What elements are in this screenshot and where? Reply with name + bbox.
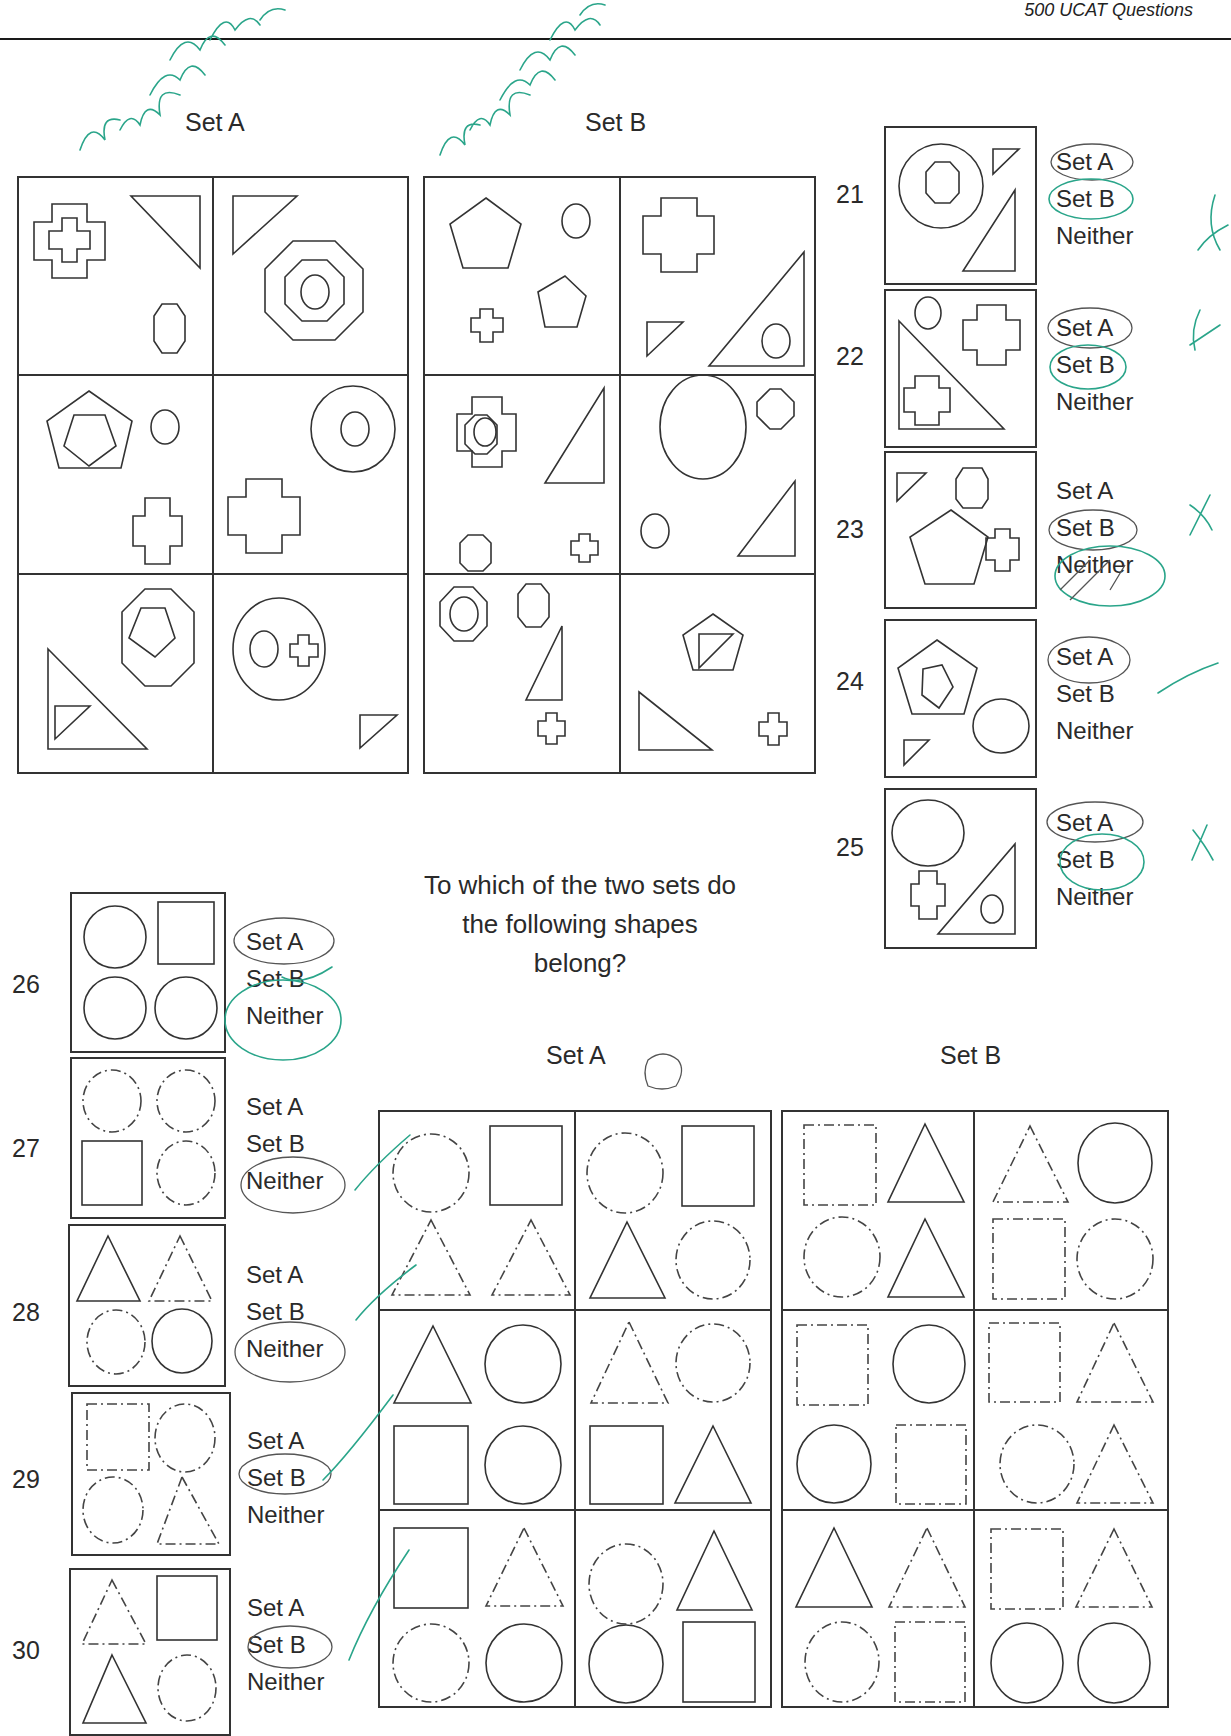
- question-prompt: To which of the two sets do the followin…: [360, 866, 800, 983]
- prompt-line-2: the following shapes: [360, 905, 800, 944]
- set-b-grid-bottom: [781, 1110, 1169, 1708]
- prompt-line-1: To which of the two sets do: [360, 866, 800, 905]
- prompt-line-3: belong?: [360, 944, 800, 983]
- answer-markings-part2: [0, 880, 420, 1728]
- set-b-label-bottom: Set B: [940, 1041, 1001, 1070]
- set-a-grid-bottom: [378, 1110, 772, 1708]
- pencil-doodle: [640, 1052, 690, 1092]
- set-a-label-bottom: Set A: [546, 1041, 606, 1070]
- answer-markings-part1: [0, 0, 1231, 960]
